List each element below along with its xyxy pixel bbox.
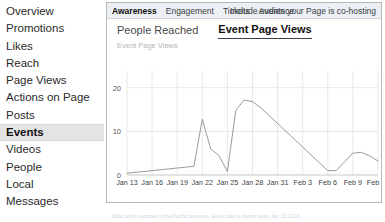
- events-insights-panel: Awareness Engagement Tickets Audience In…: [106, 2, 382, 203]
- sidebar-item-overview[interactable]: Overview: [0, 3, 104, 20]
- sidebar-item-local[interactable]: Local: [0, 176, 104, 193]
- chart-axis-title: Event Page Views: [107, 41, 381, 50]
- x-tick-label: Jan 28: [242, 178, 264, 187]
- sidebar-item-reach[interactable]: Reach: [0, 55, 104, 72]
- x-tick-label: Feb 12: [367, 178, 382, 187]
- metric-event-page-views[interactable]: Event Page Views: [218, 23, 311, 39]
- chart-svg: 01020Jan 13Jan 16Jan 19Jan 22Jan 25Jan 2…: [107, 55, 382, 203]
- x-tick-label: Jan 16: [141, 178, 163, 187]
- sidebar-item-page-views[interactable]: Page Views: [0, 72, 104, 89]
- sidebar-item-videos[interactable]: Videos: [0, 141, 104, 158]
- x-tick-label: Jan 31: [267, 178, 289, 187]
- sidebar-item-people[interactable]: People: [0, 159, 104, 176]
- x-tick-label: Jan 19: [166, 178, 188, 187]
- sidebar-item-promotions[interactable]: Promotions: [0, 20, 104, 37]
- sidebar-item-likes[interactable]: Likes: [0, 38, 104, 55]
- cohost-events-label[interactable]: Include events your Page is co-hosting: [230, 6, 376, 16]
- chart-caption: Data points reported in the Pacific time…: [112, 213, 384, 219]
- y-tick-label: 10: [113, 127, 121, 136]
- x-tick-label: Feb 9: [344, 178, 362, 187]
- x-tick-label: Feb 6: [319, 178, 337, 187]
- tab-bar: Awareness Engagement Tickets Audience In…: [107, 3, 381, 19]
- x-tick-label: Jan 25: [217, 178, 239, 187]
- sidebar-item-actions-on-page[interactable]: Actions on Page: [0, 89, 104, 106]
- x-tick-label: Jan 22: [192, 178, 214, 187]
- metric-people-reached[interactable]: People Reached: [117, 24, 198, 39]
- event-page-views-chart: 01020Jan 13Jan 16Jan 19Jan 22Jan 25Jan 2…: [107, 55, 382, 203]
- x-tick-label: Feb 3: [294, 178, 312, 187]
- y-tick-label: 20: [113, 84, 121, 93]
- sidebar-item-events[interactable]: Events: [0, 124, 104, 141]
- sidebar-item-messages[interactable]: Messages: [0, 193, 104, 210]
- tab-engagement[interactable]: Engagement: [166, 6, 214, 16]
- metric-selector: People Reached Event Page Views: [107, 19, 381, 43]
- sidebar: Overview Promotions Likes Reach Page Vie…: [0, 0, 104, 222]
- x-tick-label: Jan 13: [116, 178, 138, 187]
- sidebar-item-posts[interactable]: Posts: [0, 107, 104, 124]
- tab-awareness[interactable]: Awareness: [112, 6, 157, 16]
